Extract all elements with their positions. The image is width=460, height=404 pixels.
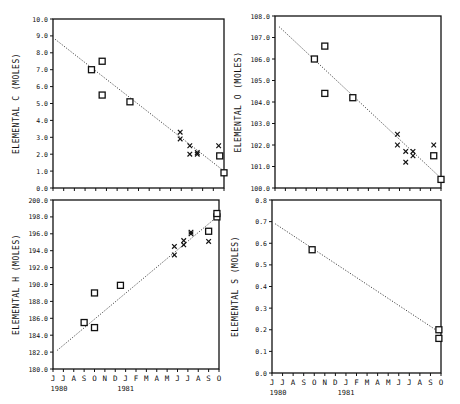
y-tick-label: 3.0 bbox=[36, 134, 48, 142]
y-tick-label: 7.0 bbox=[36, 66, 48, 74]
x-marker bbox=[172, 244, 177, 249]
square-marker bbox=[436, 335, 442, 341]
y-tick-label: 0.8 bbox=[255, 197, 267, 205]
x-marker bbox=[431, 143, 436, 148]
y-tick-label: 0.0 bbox=[255, 370, 267, 378]
y-axis-title: ELEMENTAL H (MOLES) bbox=[12, 234, 21, 335]
x-tick-label: A bbox=[291, 378, 296, 387]
y-tick-label: 5.0 bbox=[36, 100, 48, 108]
x-marker bbox=[216, 143, 221, 148]
x-tick-label: N bbox=[103, 374, 108, 383]
y-tick-label: 8.0 bbox=[36, 49, 48, 57]
square-marker bbox=[438, 176, 444, 182]
y-axis-title: ELEMENTAL C (MOLES) bbox=[12, 53, 21, 154]
series-crosses bbox=[395, 132, 436, 165]
y-tick-label: 194.0 bbox=[28, 247, 48, 255]
square-marker bbox=[99, 92, 105, 98]
y-tick-label: 0.5 bbox=[255, 261, 267, 269]
series-squares bbox=[311, 43, 444, 182]
y-tick-label: 1.0 bbox=[36, 168, 48, 176]
square-marker bbox=[309, 247, 315, 253]
square-marker bbox=[311, 56, 317, 62]
x-tick-label: J bbox=[396, 378, 401, 387]
x-tick-label: J bbox=[175, 374, 180, 383]
y-tick-label: 182.0 bbox=[28, 349, 48, 357]
y-tick-label: 105.0 bbox=[250, 77, 270, 85]
y-tick-label: 190.0 bbox=[28, 281, 48, 289]
x-tick-label: D bbox=[333, 378, 338, 387]
y-tick-label: 198.0 bbox=[28, 213, 48, 221]
x-tick-label: F bbox=[354, 378, 359, 387]
y-tick-label: 196.0 bbox=[28, 230, 48, 238]
x-tick-label: S bbox=[301, 378, 306, 387]
series-squares bbox=[88, 58, 227, 176]
y-axis: 180.0182.0184.0186.0188.0190.0192.0194.0… bbox=[28, 197, 53, 374]
y-tick-label: 9.0 bbox=[36, 32, 48, 40]
y-tick-label: 0.2 bbox=[255, 326, 267, 334]
x-tick-label: A bbox=[71, 374, 76, 383]
x-tick-label: J bbox=[186, 374, 191, 383]
x-tick-label: J bbox=[407, 378, 412, 387]
y-axis-title: ELEMENTAL O (MOLES) bbox=[234, 51, 243, 152]
x-tick-label: O bbox=[92, 374, 97, 383]
y-tick-label: 0.3 bbox=[255, 305, 267, 313]
x-tick-label: M bbox=[144, 374, 149, 383]
square-marker bbox=[217, 153, 223, 159]
square-marker bbox=[206, 228, 212, 234]
x-tick-label: A bbox=[418, 378, 423, 387]
x-tick-label: J bbox=[344, 378, 349, 387]
x-marker bbox=[411, 153, 416, 158]
trend-line bbox=[279, 27, 440, 178]
x-tick-label: F bbox=[134, 374, 139, 383]
x-tick-label: M bbox=[386, 378, 391, 387]
x-tick-label: M bbox=[165, 374, 170, 383]
chart-canvas: 0.01.02.03.04.05.06.07.08.09.010.0ELEMEN… bbox=[0, 0, 460, 404]
plot-frame bbox=[275, 16, 441, 188]
trend-line bbox=[57, 217, 217, 351]
y-tick-label: 100.0 bbox=[250, 185, 270, 193]
square-marker bbox=[88, 67, 94, 73]
y-tick-label: 180.0 bbox=[28, 366, 48, 374]
x-marker bbox=[206, 239, 211, 244]
x-tick-label: O bbox=[439, 378, 444, 387]
x-marker bbox=[181, 238, 186, 243]
series-crosses bbox=[178, 130, 221, 157]
x-marker bbox=[403, 160, 408, 165]
x-tick-label: M bbox=[365, 378, 370, 387]
square-marker bbox=[221, 170, 227, 176]
y-tick-label: 186.0 bbox=[28, 315, 48, 323]
y-tick-label: 102.0 bbox=[250, 142, 270, 150]
x-tick-label: A bbox=[196, 374, 201, 383]
x-marker bbox=[178, 130, 183, 135]
plot-frame bbox=[53, 200, 219, 369]
square-marker bbox=[214, 211, 220, 217]
y-tick-label: 104.0 bbox=[250, 99, 270, 107]
x-tick-label: J bbox=[61, 374, 66, 383]
y-tick-label: 0.7 bbox=[255, 218, 267, 226]
y-tick-label: 108.0 bbox=[250, 13, 270, 21]
x-marker bbox=[172, 253, 177, 258]
y-tick-label: 2.0 bbox=[36, 151, 48, 159]
y-tick-label: 0.1 bbox=[255, 348, 267, 356]
y-tick-label: 107.0 bbox=[250, 34, 270, 42]
x-axis: JJASONDJFMAMJJASO19801981 bbox=[270, 373, 444, 397]
x-tick-label: O bbox=[217, 374, 222, 383]
y-tick-label: 192.0 bbox=[28, 264, 48, 272]
y-tick-label: 103.0 bbox=[250, 120, 270, 128]
square-marker bbox=[322, 43, 328, 49]
x-tick-label: J bbox=[51, 374, 56, 383]
square-marker bbox=[99, 58, 105, 64]
x-marker bbox=[178, 137, 183, 142]
y-tick-label: 188.0 bbox=[28, 298, 48, 306]
x-marker bbox=[395, 143, 400, 148]
x-axis: JJASONDJFMAMJJASO19801981 bbox=[51, 369, 222, 393]
square-marker bbox=[322, 90, 328, 96]
chart-hydrogen: 180.0182.0184.0186.0188.0190.0192.0194.0… bbox=[12, 197, 222, 394]
square-marker bbox=[81, 320, 87, 326]
x-tick-label: S bbox=[82, 374, 87, 383]
series-squares bbox=[81, 211, 220, 331]
x-tick-label: J bbox=[280, 378, 285, 387]
trend-line bbox=[275, 224, 439, 332]
chart-carbon: 0.01.02.03.04.05.06.07.08.09.010.0ELEMEN… bbox=[12, 16, 227, 193]
square-marker bbox=[127, 99, 133, 105]
